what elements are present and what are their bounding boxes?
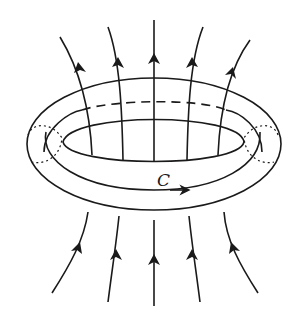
loop-label: C [157,170,170,190]
arrow-bottom-4-icon [186,249,198,260]
field-line-bottom-1 [52,212,88,293]
field-line-top-2 [108,27,123,160]
field-line-bottom-5 [224,212,258,293]
arrow-bottom-2-icon [110,249,122,260]
field-line-top-4 [187,27,203,160]
field-line-bottom-4 [189,216,200,302]
field-line-bottom-2 [108,216,119,302]
arrow-top-4-icon [186,57,198,68]
arrow-top-2-icon [112,57,124,68]
torus-diagram [0,0,305,327]
arrow-bottom-1-icon [71,242,82,254]
